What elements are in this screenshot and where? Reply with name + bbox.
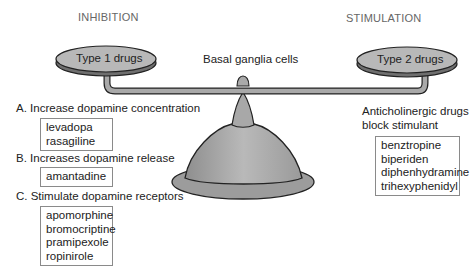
group-a-drug-box: levadopa rasagiline	[40, 118, 113, 151]
drug-item: trihexyphenidyl	[381, 180, 454, 194]
inhibition-heading: INHIBITION	[78, 11, 139, 23]
anticholinergic-title: Anticholinergic drugs block stimulant	[362, 104, 469, 132]
group-c-title: C. Stimulate dopamine receptors	[16, 190, 183, 202]
drug-item: apomorphine	[46, 209, 107, 223]
drug-item: amantadine	[46, 170, 107, 184]
drug-item: pramipexole	[46, 236, 107, 250]
anticholinergic-title-line2: block stimulant	[362, 118, 469, 132]
scale-beam	[107, 74, 425, 91]
drug-item: diphenhydramine	[381, 166, 454, 180]
type2-drugs-label: Type 2 drugs	[377, 53, 443, 65]
drug-item: rasagiline	[46, 135, 107, 149]
drug-item: ropinirole	[46, 250, 107, 264]
drug-item: biperiden	[381, 153, 454, 167]
anticholinergic-title-line1: Anticholinergic drugs	[362, 104, 469, 118]
group-b-drug-box: amantadine	[40, 167, 113, 187]
anticholinergic-drug-box: benztropine biperiden diphenhydramine tr…	[375, 136, 460, 196]
drug-item: benztropine	[381, 139, 454, 153]
drug-item: bromocriptine	[46, 223, 107, 237]
type1-drugs-label: Type 1 drugs	[76, 52, 142, 64]
group-b-title: B. Increases dopamine release	[16, 152, 175, 164]
basal-ganglia-label: Basal ganglia cells	[203, 53, 298, 65]
group-a-title: A. Increase dopamine concentration	[16, 102, 200, 114]
stimulation-heading: STIMULATION	[346, 12, 421, 24]
group-c-drug-box: apomorphine bromocriptine pramipexole ro…	[40, 206, 113, 266]
drug-item: levadopa	[46, 121, 107, 135]
